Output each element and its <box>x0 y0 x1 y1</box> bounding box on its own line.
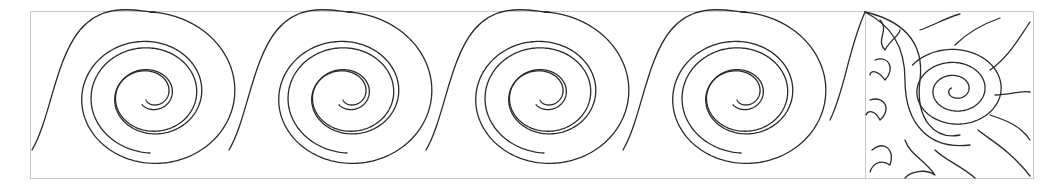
flame-ray <box>990 22 1030 70</box>
flame-ray <box>870 59 890 80</box>
sun-corner-block <box>865 12 1030 178</box>
corner-connector <box>830 12 865 120</box>
spiral-motif <box>623 10 826 164</box>
flame-ray <box>870 146 891 172</box>
border-frame <box>31 12 1034 179</box>
flame-ray <box>905 140 935 178</box>
spiral-motif <box>32 10 235 164</box>
sun-spiral <box>913 49 1002 124</box>
flame-ray <box>955 18 1000 45</box>
flame-ray <box>978 130 1030 176</box>
spiral-motif <box>426 10 629 164</box>
spiral-row <box>32 10 865 164</box>
flame-ray <box>990 115 1030 140</box>
sun-tail-outer <box>865 12 970 146</box>
flame-ray <box>920 14 960 30</box>
flame-ray <box>935 150 975 178</box>
flame-ray <box>866 99 886 120</box>
spiral-motif <box>229 10 432 164</box>
quilt-pattern-canvas <box>0 0 1060 187</box>
